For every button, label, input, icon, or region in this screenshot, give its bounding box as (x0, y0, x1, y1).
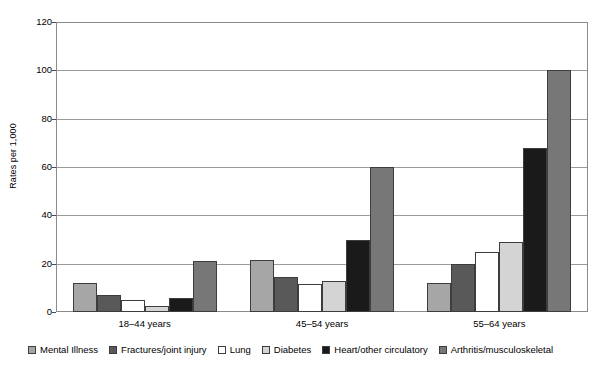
y-tick-label-20: 20 (12, 259, 52, 269)
bar (322, 281, 346, 312)
bar (274, 277, 298, 312)
legend-item[interactable]: Fractures/joint injury (109, 345, 207, 355)
bar (121, 300, 145, 312)
legend-item[interactable]: Diabetes (262, 345, 312, 355)
legend-swatch-icon (218, 346, 226, 354)
y-tick-label-80: 80 (12, 114, 52, 124)
legend-swatch-icon (262, 346, 270, 354)
legend-label: Heart/other circulatory (334, 345, 427, 355)
legend-swatch-icon (109, 346, 117, 354)
bar (97, 295, 121, 312)
bar (193, 261, 217, 312)
legend-swatch-icon (439, 346, 447, 354)
bar (451, 264, 475, 312)
bar-chart: Rates per 1,000 020406080100120 18–44 ye… (0, 0, 600, 369)
legend-label: Lung (230, 345, 251, 355)
legend-item[interactable]: Heart/other circulatory (322, 345, 427, 355)
bar (145, 306, 169, 312)
y-tick-mark-0 (52, 312, 56, 313)
bar (499, 242, 523, 312)
legend-label: Arthritis/musculoskeletal (451, 345, 553, 355)
x-axis-label: 18–44 years (85, 318, 205, 329)
legend-item[interactable]: Lung (218, 345, 251, 355)
bar (346, 240, 370, 313)
y-axis-title-text: Rates per 1,000 (8, 123, 18, 189)
legend-label: Diabetes (274, 345, 312, 355)
y-tick-label-100: 100 (12, 65, 52, 75)
bar-group (411, 22, 588, 312)
bar (547, 70, 571, 312)
bar (523, 148, 547, 312)
bars-layer (56, 22, 588, 312)
legend-item[interactable]: Mental Illness (28, 345, 98, 355)
y-tick-label-40: 40 (12, 210, 52, 220)
legend-item[interactable]: Arthritis/musculoskeletal (439, 345, 553, 355)
x-axis-label: 55–64 years (439, 318, 559, 329)
legend-label: Fractures/joint injury (121, 345, 207, 355)
bar-group (56, 22, 233, 312)
y-tick-label-0: 0 (12, 307, 52, 317)
legend-swatch-icon (28, 346, 36, 354)
legend-swatch-icon (322, 346, 330, 354)
bar (169, 298, 193, 313)
bar (427, 283, 451, 312)
legend-label: Mental Illness (40, 345, 98, 355)
bar (370, 167, 394, 312)
bar (475, 252, 499, 312)
y-tick-label-120: 120 (12, 17, 52, 27)
bar (250, 260, 274, 312)
bar-group (233, 22, 410, 312)
bar (298, 284, 322, 312)
legend: Mental IllnessFractures/joint injuryLung… (28, 345, 588, 355)
y-tick-label-60: 60 (12, 162, 52, 172)
bar (73, 283, 97, 312)
x-axis-label: 45–54 years (262, 318, 382, 329)
